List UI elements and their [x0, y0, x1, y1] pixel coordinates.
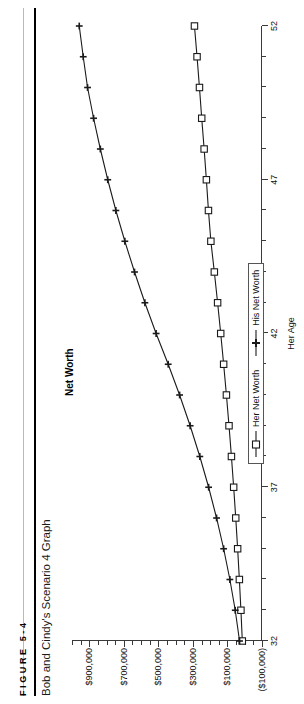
x-tick-label: 47 — [269, 175, 279, 185]
x-tick — [262, 486, 268, 487]
legend-label: His Net Worth — [251, 270, 261, 326]
y-tick-label: $300,000 — [188, 648, 198, 686]
data-point-plus-marker — [97, 146, 104, 153]
data-point-square-marker — [201, 146, 207, 152]
x-tick — [262, 640, 268, 641]
x-axis-title: Her Age — [286, 26, 296, 641]
x-tick — [262, 548, 266, 549]
x-tick — [262, 609, 266, 610]
figure-page: FIGURE 5-4 Bob and Cindy's Scenario 4 Gr… — [0, 0, 304, 704]
data-point-square-marker — [194, 54, 200, 60]
series-plot — [72, 26, 262, 641]
y-tick — [124, 641, 125, 647]
y-tick — [107, 641, 108, 645]
data-point-plus-marker — [220, 545, 227, 552]
legend-plus-marker-icon — [251, 330, 261, 356]
data-point-plus-marker — [165, 361, 172, 368]
data-point-square-marker — [208, 238, 214, 244]
data-point-plus-marker — [187, 422, 194, 429]
y-tick — [115, 641, 116, 645]
x-tick — [262, 210, 266, 211]
y-tick-label: ($100,000) — [257, 648, 267, 692]
rotated-content-plane: FIGURE 5-4 Bob and Cindy's Scenario 4 Gr… — [12, 8, 292, 696]
data-point-plus-marker — [104, 176, 111, 183]
data-point-square-marker — [218, 330, 224, 336]
y-tick — [81, 641, 82, 645]
figure-header-rule — [34, 8, 36, 696]
data-point-square-marker — [228, 453, 234, 459]
y-tick-label: $500,000 — [153, 648, 163, 686]
legend-item-her-net-worth: Her Net Worth — [251, 370, 261, 457]
data-point-plus-marker — [153, 330, 160, 337]
y-tick — [202, 641, 203, 645]
x-tick — [262, 25, 268, 26]
data-point-plus-marker — [112, 207, 119, 214]
data-point-square-marker — [211, 269, 217, 275]
x-tick-label: 52 — [269, 21, 279, 31]
x-tick-label: 42 — [269, 328, 279, 338]
data-point-plus-marker — [205, 484, 212, 491]
y-tick — [193, 641, 194, 647]
figure-caption: Bob and Cindy's Scenario 4 Graph — [40, 519, 52, 696]
y-tick — [132, 641, 133, 645]
data-point-square-marker — [236, 576, 242, 582]
x-tick — [262, 117, 266, 118]
x-tick-label: 37 — [269, 482, 279, 492]
chart-legend: Her Net Worth His Net Worth — [248, 263, 264, 464]
y-tick — [89, 641, 90, 647]
plot-area: ($100,000)$100,000$300,000$500,000$700,0… — [72, 26, 262, 641]
data-point-plus-marker — [226, 576, 233, 583]
legend-square-marker-icon — [251, 431, 261, 457]
y-tick — [227, 641, 228, 647]
data-point-square-marker — [234, 546, 240, 552]
y-tick — [210, 641, 211, 645]
data-point-plus-marker — [90, 115, 97, 122]
x-tick — [262, 148, 266, 149]
y-tick-label: $100,000 — [222, 648, 232, 686]
x-tick — [262, 579, 266, 580]
data-point-plus-marker — [121, 238, 128, 245]
data-point-square-marker — [191, 23, 197, 29]
y-tick — [219, 641, 220, 645]
y-tick — [150, 641, 151, 645]
data-point-plus-marker — [176, 392, 183, 399]
y-tick-label: $900,000 — [84, 648, 94, 686]
data-point-plus-marker — [76, 23, 83, 30]
data-point-square-marker — [199, 115, 205, 121]
data-point-plus-marker — [131, 269, 138, 276]
figure-number-label: FIGURE 5-4 — [18, 620, 28, 696]
x-tick-label: 32 — [269, 636, 279, 646]
x-tick — [262, 179, 268, 180]
data-point-square-marker — [238, 607, 244, 613]
x-tick — [262, 87, 266, 88]
data-point-square-marker — [196, 84, 202, 90]
data-point-square-marker — [233, 515, 239, 521]
x-tick — [262, 240, 266, 241]
legend-item-his-net-worth: His Net Worth — [251, 270, 261, 356]
y-tick — [253, 641, 254, 645]
y-tick — [141, 641, 142, 645]
data-point-plus-marker — [80, 53, 87, 60]
data-point-square-marker — [223, 392, 229, 398]
legend-label: Her Net Worth — [251, 370, 261, 427]
data-point-plus-marker — [84, 84, 91, 91]
data-point-square-marker — [220, 361, 226, 367]
y-tick — [72, 641, 73, 645]
data-point-square-marker — [230, 484, 236, 490]
y-tick — [98, 641, 99, 645]
data-point-square-marker — [203, 177, 209, 183]
y-tick-label: $700,000 — [119, 648, 129, 686]
x-tick — [262, 56, 266, 57]
data-point-plus-marker — [196, 453, 203, 460]
y-tick — [176, 641, 177, 645]
y-tick — [184, 641, 185, 645]
y-tick — [158, 641, 159, 647]
data-point-square-marker — [205, 207, 211, 213]
data-point-square-marker — [226, 423, 232, 429]
y-tick — [167, 641, 168, 645]
x-tick — [262, 517, 266, 518]
data-point-plus-marker — [141, 299, 148, 306]
data-point-plus-marker — [213, 515, 220, 522]
data-point-square-marker — [214, 300, 220, 306]
y-tick — [262, 641, 263, 647]
